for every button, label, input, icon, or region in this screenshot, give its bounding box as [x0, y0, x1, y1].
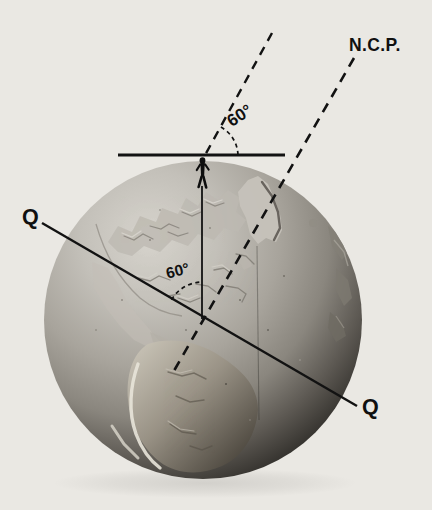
- pole-altitude-angle-arc: [221, 127, 238, 156]
- observer-sight-line-dashed: [204, 33, 272, 157]
- equator-label-left: Q: [22, 205, 39, 230]
- ncp-label: N.C.P.: [349, 35, 401, 56]
- figure-canvas: N.C.P. 60° 60° Q Q: [0, 0, 432, 510]
- globe-illustration: [0, 0, 432, 510]
- iceland: [309, 219, 317, 227]
- equator-label-right: Q: [362, 395, 379, 420]
